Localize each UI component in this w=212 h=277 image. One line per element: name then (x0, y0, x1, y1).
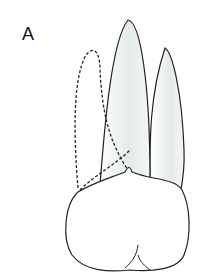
tooth-illustration (0, 0, 212, 277)
crown (66, 168, 189, 271)
root-main (100, 20, 150, 185)
root-right (150, 48, 184, 195)
